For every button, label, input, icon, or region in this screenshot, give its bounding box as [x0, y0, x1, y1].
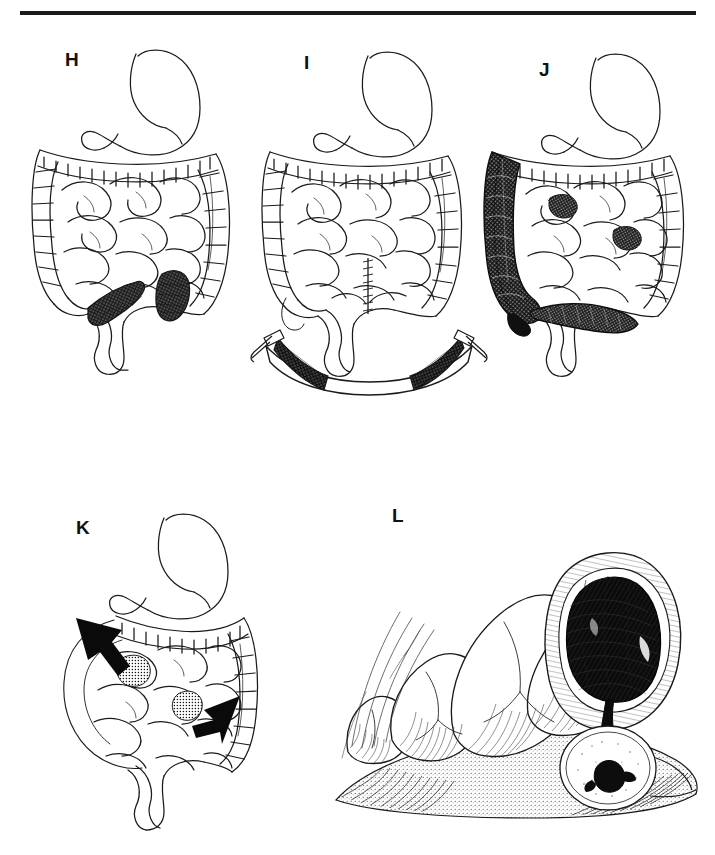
panel-k-illustration	[44, 500, 306, 830]
panel-label-l: L	[392, 506, 404, 525]
panel-label-i: I	[304, 53, 309, 72]
panel-label-j: J	[539, 60, 550, 79]
panel-j-illustration	[478, 52, 714, 382]
lesion-patch	[549, 195, 577, 218]
panel-h-illustration	[24, 46, 264, 376]
resected-specimen	[251, 330, 487, 395]
lesion-patch	[613, 227, 641, 250]
diseased-terminal-ileum	[531, 304, 638, 333]
panel-l-illustration	[330, 496, 715, 826]
figure-plate: H I J K L	[0, 0, 715, 855]
tumour-mass	[566, 576, 661, 702]
panel-i-illustration	[250, 46, 490, 406]
panel-label-h: H	[65, 50, 79, 69]
panel-label-k: K	[76, 518, 90, 537]
lesion-stippled-patch	[172, 691, 202, 720]
top-rule-divider	[20, 11, 696, 15]
lesion-segment	[156, 271, 190, 321]
lesion-segment	[88, 281, 145, 325]
polypoid-nodule-disc	[560, 726, 656, 810]
